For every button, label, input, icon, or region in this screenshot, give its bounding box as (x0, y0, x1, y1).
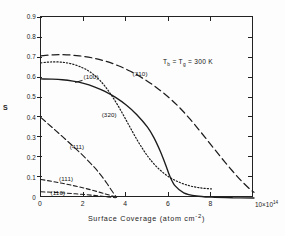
y-tick-label: 0.1 (27, 173, 36, 180)
y-tick-label: 0.3 (27, 133, 36, 140)
x-tick-label: 8 (209, 200, 213, 207)
figure-surface-coverage-sticking-chart: 0.9 0.8 0.7 0.6 0.5 0.4 0.3 0.2 0.1 0 S (0, 0, 285, 236)
y-tick-label: 0.9 (27, 13, 36, 20)
plot-area: (100) (310) (320) (411) (111) (110) (40, 16, 253, 197)
curve-label-111: (111) (59, 175, 73, 182)
temperature-annotation: Tb = Tg = 300 K (163, 58, 213, 67)
curve-layer (41, 17, 254, 198)
x-tick-label: 0 (38, 200, 42, 207)
x-axis-exponent-label: 10×1014 (255, 200, 278, 208)
y-axis-title: S (3, 104, 8, 111)
x-axis-tick-labels: 0 2 4 6 8 (40, 198, 253, 212)
y-tick-label: 0.4 (27, 113, 36, 120)
curve-320 (41, 62, 211, 189)
curve-label-320: (320) (102, 111, 117, 118)
curve-411 (41, 118, 117, 198)
x-tick-label: 4 (123, 200, 127, 207)
y-tick-label: 0 (32, 194, 36, 201)
x-tick-label: 6 (166, 200, 170, 207)
x-axis-title: Surface Coverage (atom cm-2) (40, 213, 253, 223)
x-tick-label: 2 (81, 200, 85, 207)
curve-label-110: (110) (51, 189, 65, 196)
curve-label-310: (310) (133, 70, 148, 77)
y-tick-label: 0.6 (27, 73, 36, 80)
y-axis-tick-labels: 0.9 0.8 0.7 0.6 0.5 0.4 0.3 0.2 0.1 0 (8, 16, 36, 197)
y-tick-label: 0.7 (27, 53, 36, 60)
y-tick-label: 0.8 (27, 33, 36, 40)
y-tick-label: 0.2 (27, 153, 36, 160)
curve-label-100: (100) (84, 73, 99, 80)
y-tick-label: 0.5 (27, 93, 36, 100)
curve-label-411: (411) (70, 143, 84, 150)
